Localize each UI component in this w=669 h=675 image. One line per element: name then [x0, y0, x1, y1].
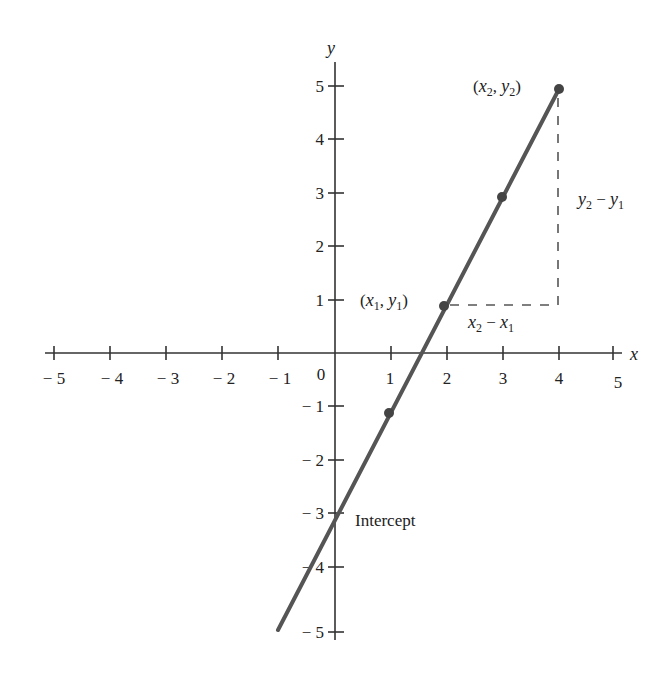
svg-text:4: 4	[555, 369, 564, 388]
svg-text:− 2: − 2	[302, 451, 324, 470]
svg-text:5: 5	[614, 373, 623, 392]
svg-text:2: 2	[443, 369, 452, 388]
run-label: x2 − x1	[467, 312, 514, 335]
svg-text:− 1: − 1	[302, 397, 324, 416]
point-x1-y1	[439, 301, 449, 311]
svg-text:− 5: − 5	[43, 369, 65, 388]
y-tick-labels: 5 4 3 2 1 − 1 − 2 − 3 − 4 − 5	[302, 77, 325, 642]
svg-text:5: 5	[316, 77, 325, 96]
line-slope-chart: − 5 − 4 − 3 − 2 − 1 1 2 3 4 5 0 5 4 3 2 …	[0, 0, 669, 675]
x-axis-label: x	[629, 344, 638, 364]
svg-text:2: 2	[316, 237, 325, 256]
svg-text:3: 3	[316, 184, 325, 203]
svg-text:− 4: − 4	[101, 369, 124, 388]
point-x1-y1-label: (x1, y1)	[360, 290, 408, 313]
intercept-label: Intercept	[355, 511, 416, 530]
svg-text:3: 3	[499, 369, 508, 388]
rise-label: y2 − y1	[576, 189, 624, 212]
svg-text:− 2: − 2	[213, 369, 235, 388]
svg-text:4: 4	[316, 130, 325, 149]
y-axis-ticks	[328, 86, 344, 632]
data-line	[278, 89, 559, 630]
svg-text:1: 1	[386, 369, 395, 388]
y-axis-label: y	[325, 38, 335, 58]
x-tick-labels: − 5 − 4 − 3 − 2 − 1 1 2 3 4 5	[43, 369, 622, 392]
origin-label: 0	[317, 365, 326, 384]
svg-text:− 1: − 1	[269, 369, 291, 388]
point-1-neg1	[384, 408, 394, 418]
svg-text:− 3: − 3	[157, 369, 179, 388]
point-3-3	[497, 192, 507, 202]
point-x2-y2-label: (x2, y2)	[473, 76, 521, 99]
svg-text:1: 1	[316, 291, 325, 310]
svg-text:− 3: − 3	[302, 504, 324, 523]
svg-text:− 5: − 5	[302, 623, 324, 642]
point-x2-y2	[554, 84, 564, 94]
